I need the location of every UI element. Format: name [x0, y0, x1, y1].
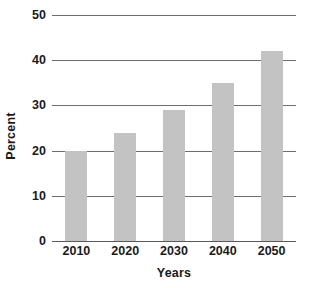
y-tick-label: 30 [16, 99, 46, 112]
bar-chart: Percent 50 40 30 20 10 0 201020202030204… [0, 0, 312, 288]
gridline [52, 60, 296, 61]
x-axis-tick-labels: 20102020203020402050 [52, 245, 296, 261]
bar [212, 83, 234, 241]
y-tick-label: 20 [16, 145, 46, 158]
x-axis-line [52, 241, 296, 242]
y-tick-label: 10 [16, 190, 46, 203]
gridline [52, 105, 296, 106]
y-axis-tick-labels: 50 40 30 20 10 0 [14, 15, 46, 241]
gridline [52, 15, 296, 16]
bar [163, 110, 185, 241]
y-tick-label: 40 [16, 54, 46, 67]
x-axis-title: Years [52, 266, 296, 280]
bar [65, 151, 87, 241]
y-tick-label: 0 [16, 235, 46, 248]
plot-area [52, 15, 296, 241]
bar [114, 133, 136, 241]
y-tick-label: 50 [16, 9, 46, 22]
bar [261, 51, 283, 241]
x-tick-label: 2050 [242, 245, 302, 258]
